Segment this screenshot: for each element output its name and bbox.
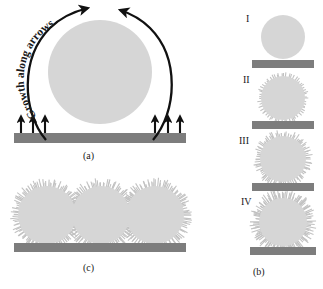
stage-sphere [261,76,305,120]
panel-b-group [250,15,316,255]
panel-b-stage-I [252,15,314,68]
panel-a-group: Growth along arrows [14,8,186,143]
figure-container: Growth along arrows [0,0,323,289]
stage-substrate [252,121,314,129]
panel-c-substrate [14,243,186,252]
panel-b-stage-II [252,76,314,129]
figure-graphics: Growth along arrows [0,0,323,289]
stage-label-four: IV [241,196,252,207]
stage-substrate [250,247,316,255]
panel-caption-c: (c) [83,262,94,273]
stage-label-three: III [239,135,249,146]
panel-a-substrate [14,133,186,143]
stage-sphere [259,198,307,246]
panel-caption-a: (a) [83,150,94,161]
panel-c-sphere [72,186,130,244]
panel-c-group [10,178,192,252]
stage-sphere [260,136,306,182]
panel-a-sphere [48,20,152,124]
stage-label-one: I [246,13,249,24]
panel-caption-b: (b) [253,266,265,277]
stage-label-two: II [243,74,250,85]
panel-c-sphere [126,186,184,244]
panel-c-sphere [18,186,76,244]
stage-sphere [261,15,305,59]
stage-substrate [252,60,314,68]
stage-substrate [252,183,314,191]
